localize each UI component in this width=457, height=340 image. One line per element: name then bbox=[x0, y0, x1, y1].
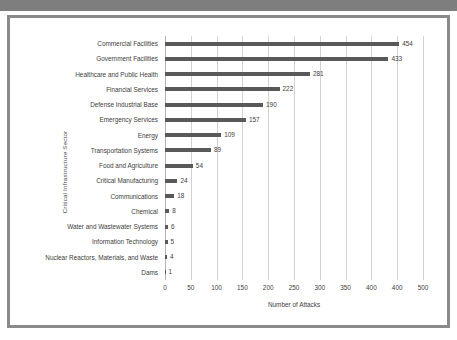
bar-row[interactable]: 4 bbox=[165, 250, 423, 265]
bar[interactable] bbox=[165, 255, 167, 259]
x-tick-label: 350 bbox=[340, 284, 351, 291]
x-tick-label: 0 bbox=[163, 284, 167, 291]
bar-row[interactable]: 54 bbox=[165, 158, 423, 173]
bar-value-label: 1 bbox=[169, 269, 173, 275]
x-tick-label: 400 bbox=[366, 284, 377, 291]
bar-value-label: 18 bbox=[177, 193, 184, 199]
x-tick-label: 300 bbox=[314, 284, 325, 291]
category-label: Defense Industrial Base bbox=[90, 97, 158, 112]
category-label: Information Technology bbox=[92, 234, 158, 249]
category-label: Food and Agriculture bbox=[99, 158, 158, 173]
bar-row[interactable]: 109 bbox=[165, 128, 423, 143]
bar-value-label: 6 bbox=[171, 223, 175, 229]
bar-value-label: 54 bbox=[196, 162, 203, 168]
bar-row[interactable]: 5 bbox=[165, 234, 423, 249]
bar-row[interactable]: 157 bbox=[165, 112, 423, 127]
category-label: Energy bbox=[138, 128, 158, 143]
x-tick-label: 150 bbox=[237, 284, 248, 291]
bar-row[interactable]: 89 bbox=[165, 143, 423, 158]
bar-value-label: 190 bbox=[266, 101, 277, 107]
bar-value-label: 157 bbox=[249, 117, 260, 123]
bar-value-label: 222 bbox=[283, 86, 294, 92]
bar-row[interactable]: 24 bbox=[165, 173, 423, 188]
category-label: Nuclear Reactors, Materials, and Waste bbox=[45, 250, 158, 265]
bar-row[interactable]: 454 bbox=[165, 36, 423, 51]
bar[interactable] bbox=[165, 194, 174, 198]
x-tick-label: 500 bbox=[418, 284, 429, 291]
bar[interactable] bbox=[165, 270, 166, 274]
bar[interactable] bbox=[165, 72, 310, 76]
bar-row[interactable]: 190 bbox=[165, 97, 423, 112]
bar-row[interactable]: 1 bbox=[165, 265, 423, 280]
category-label: Critical Manufacturing bbox=[96, 173, 158, 188]
gridline-500 bbox=[423, 36, 424, 280]
chart-plot-wrapper: Critical Infrastructure Sector Commercia… bbox=[10, 18, 447, 325]
bar-value-label: 281 bbox=[313, 71, 324, 77]
bar-row[interactable]: 281 bbox=[165, 67, 423, 82]
bar-value-label: 4 bbox=[170, 254, 174, 260]
x-tick-label: 50 bbox=[187, 284, 194, 291]
x-tick-label: 200 bbox=[263, 284, 274, 291]
category-label: Government Facilities bbox=[96, 51, 158, 66]
category-label: Dams bbox=[141, 265, 158, 280]
category-label: Communications bbox=[110, 189, 158, 204]
bar-value-label: 24 bbox=[180, 178, 187, 184]
category-label: Commercial Facilities bbox=[97, 36, 158, 51]
bar[interactable] bbox=[165, 225, 168, 229]
bar-row[interactable]: 433 bbox=[165, 51, 423, 66]
bar-value-label: 454 bbox=[402, 40, 413, 46]
category-label: Financial Services bbox=[106, 82, 158, 97]
bar-row[interactable]: 222 bbox=[165, 82, 423, 97]
page-edge-strip bbox=[0, 0, 457, 11]
bar-row[interactable]: 8 bbox=[165, 204, 423, 219]
bar-value-label: 109 bbox=[224, 132, 235, 138]
category-label: Water and Wastewater Systems bbox=[67, 219, 158, 234]
x-tick-label: 250 bbox=[289, 284, 300, 291]
bar-value-label: 433 bbox=[391, 56, 402, 62]
bar[interactable] bbox=[165, 148, 211, 152]
category-label: Emergency Services bbox=[99, 112, 158, 127]
bar[interactable] bbox=[165, 179, 177, 183]
x-tick-label: 400 bbox=[392, 284, 403, 291]
bar[interactable] bbox=[165, 240, 168, 244]
bar-value-label: 5 bbox=[171, 239, 175, 245]
bar-row[interactable]: 18 bbox=[165, 189, 423, 204]
bar[interactable] bbox=[165, 133, 221, 137]
chart-frame: Critical Infrastructure Sector Commercia… bbox=[7, 15, 450, 328]
bar[interactable] bbox=[165, 57, 388, 61]
bar-value-label: 89 bbox=[214, 147, 221, 153]
bar[interactable] bbox=[165, 87, 280, 91]
category-label: Chemical bbox=[131, 204, 158, 219]
bar-row[interactable]: 6 bbox=[165, 219, 423, 234]
category-label: Transportation Systems bbox=[91, 143, 158, 158]
bar[interactable] bbox=[165, 42, 399, 46]
bar[interactable] bbox=[165, 103, 263, 107]
x-axis-title: Number of Attacks bbox=[165, 301, 423, 308]
plot-area: 4544332812221901571098954241886541 bbox=[165, 36, 423, 280]
bar[interactable] bbox=[165, 118, 246, 122]
x-tick-label: 100 bbox=[211, 284, 222, 291]
bar[interactable] bbox=[165, 164, 193, 168]
category-axis-labels: Commercial FacilitiesGovernment Faciliti… bbox=[34, 36, 162, 280]
bar-value-label: 8 bbox=[172, 208, 176, 214]
bar[interactable] bbox=[165, 209, 169, 213]
category-label: Healthcare and Public Health bbox=[75, 67, 158, 82]
x-axis-tick-labels: 050100150200250300350400400500 bbox=[165, 284, 423, 296]
